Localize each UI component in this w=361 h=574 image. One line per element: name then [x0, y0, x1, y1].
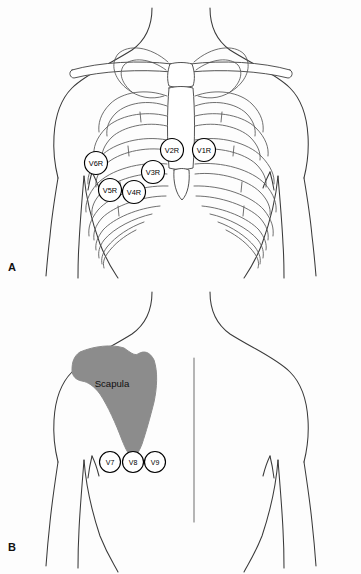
lead-marker-v6r[interactable]: V6R	[85, 152, 108, 175]
lead-label-v3r: V3R	[146, 168, 160, 177]
panel-letter-a: A	[8, 261, 16, 273]
lead-label-v4r: V4R	[127, 188, 141, 197]
lead-marker-v2r[interactable]: V2R	[161, 139, 184, 162]
figure-canvas: V1R V2R V3R V4R V5R	[0, 0, 361, 574]
lead-label-v2r: V2R	[165, 146, 179, 155]
scapula-shape	[72, 346, 157, 456]
lead-label-v1r: V1R	[197, 146, 211, 155]
ribcage-right	[194, 92, 276, 268]
lead-label-v8: V8	[129, 459, 138, 466]
lead-label-v9: V9	[151, 459, 160, 466]
panel-letter-b: B	[8, 541, 16, 553]
lead-marker-v5r[interactable]: V5R	[99, 179, 122, 202]
lead-marker-v1r[interactable]: V1R	[193, 139, 216, 162]
lead-label-v6r: V6R	[89, 159, 103, 168]
lead-marker-v7[interactable]: V7	[100, 452, 121, 473]
lead-marker-v4r[interactable]: V4R	[123, 181, 146, 204]
posterior-body-outline	[46, 292, 316, 572]
lead-label-v5r: V5R	[103, 186, 117, 195]
scapula-label: Scapula	[95, 378, 130, 389]
sternum	[168, 63, 195, 201]
lead-marker-v3r[interactable]: V3R	[142, 161, 165, 184]
lead-label-v7: V7	[106, 459, 115, 466]
panel-b-posterior: Scapula V7 V8 V9	[46, 292, 316, 572]
panel-a-anterior: V1R V2R V3R V4R V5R	[46, 8, 316, 278]
ecg-lead-placement-figure: V1R V2R V3R V4R V5R	[0, 0, 361, 574]
posterior-leads-group: V7 V8 V9	[100, 452, 166, 473]
lead-marker-v9[interactable]: V9	[145, 452, 166, 473]
lead-marker-v8[interactable]: V8	[123, 452, 144, 473]
